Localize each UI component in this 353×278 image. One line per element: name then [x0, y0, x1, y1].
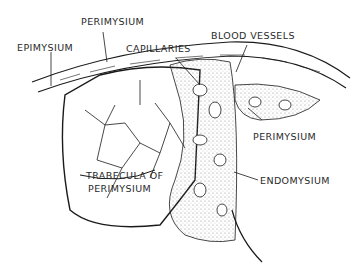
- label-blood-vessels: BLOOD VESSELS: [211, 30, 295, 41]
- muscle-fibres: [169, 59, 320, 242]
- label-endomysium: ENDOMYSIUM: [260, 175, 330, 186]
- label-perimysium-right: PERIMYSIUM: [253, 131, 316, 142]
- septum: [232, 210, 262, 262]
- label-perimysium-top: PERIMYSIUM: [81, 16, 144, 27]
- label-trabecula-line1: TRABECULA OF: [86, 170, 163, 181]
- label-trabecula-line2: PERIMYSIUM: [88, 183, 151, 194]
- label-epimysium: EPIMYSIUM: [17, 42, 73, 53]
- label-capillaries: CAPILLARIES: [126, 43, 191, 54]
